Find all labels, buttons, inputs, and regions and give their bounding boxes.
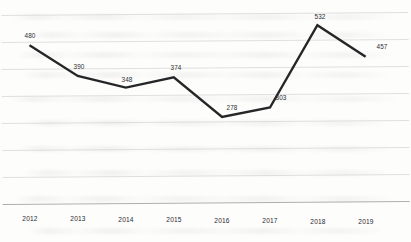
gridline: [2, 94, 409, 97]
data-label-2016: 278: [226, 104, 237, 111]
gridline: [2, 175, 409, 178]
x-tick-label-2012: 2012: [22, 215, 37, 222]
x-tick-label-2013: 2013: [70, 215, 85, 222]
data-label-2018: 532: [314, 13, 325, 20]
data-label-2013: 390: [73, 63, 84, 70]
gridline: [2, 148, 409, 151]
data-label-2017: 303: [275, 94, 286, 101]
data-label-2014: 348: [121, 76, 132, 83]
gridline: [2, 121, 409, 124]
gridline: [1, 40, 408, 43]
x-tick-label-2017: 2017: [262, 217, 277, 224]
data-line: [29, 25, 366, 118]
plot-area: [0, 0, 411, 242]
line-chart: 480 390 348 374 278 303 532 457 2012 201…: [0, 0, 411, 242]
x-tick-label-2015: 2015: [166, 216, 181, 223]
x-tick-label-2016: 2016: [214, 217, 229, 224]
x-tick-label-2018: 2018: [310, 218, 325, 225]
x-tick-label-2014: 2014: [118, 216, 133, 223]
data-label-2019: 457: [376, 43, 387, 50]
x-tick-label-2019: 2019: [358, 218, 373, 225]
data-label-2015: 374: [170, 64, 181, 71]
gridlines: [1, 13, 409, 178]
x-axis-line: [3, 202, 410, 205]
data-label-2012: 480: [24, 32, 35, 39]
gridline: [1, 13, 408, 16]
